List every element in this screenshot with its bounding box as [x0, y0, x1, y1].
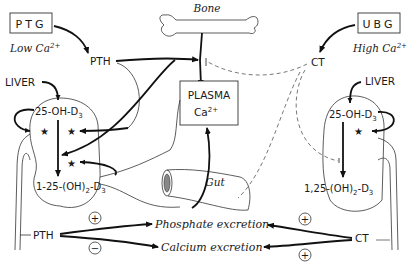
- pth-to-bone-arrow: [116, 59, 198, 61]
- pth-calcium-sign: −: [91, 243, 99, 254]
- ct-bottom-label: CT: [355, 232, 369, 244]
- right-125ohd3-label: 1,25-(OH)2-D3: [304, 183, 373, 197]
- low-ca-label: Low Ca2+: [9, 42, 60, 54]
- pth-phosphate-sign: +: [91, 213, 99, 224]
- left-loop-arrow: [15, 110, 34, 131]
- ct-phosphate-sign: +: [301, 214, 309, 225]
- right-liver-label: LIVER: [365, 75, 395, 87]
- pth-bottom-label: PTH: [33, 229, 54, 241]
- right-star-1: ★: [354, 126, 363, 137]
- high-ca-label: High Ca2+: [352, 42, 407, 54]
- ubg-label: UBG: [363, 18, 396, 31]
- bone-icon: [160, 15, 258, 36]
- pth-calcium-arrow: [60, 236, 158, 247]
- ct-inhibit-bone-line: [208, 62, 307, 75]
- left-liver-arrow: [42, 82, 58, 100]
- pth-to-star-arrow: [80, 128, 128, 131]
- ct-top-label: CT: [311, 56, 325, 68]
- left-25ohd3-label: 25-OH-D3: [35, 106, 83, 120]
- ct-phosphate-arrow: [268, 225, 352, 238]
- ptg-gland-box: PTG: [10, 13, 52, 33]
- calcium-excretion-label: Calcium excretion: [161, 241, 262, 254]
- right-liver-arrow: [350, 82, 361, 103]
- right-25ohd3-label: 25-OH-D3: [329, 109, 377, 123]
- bone-label: Bone: [192, 2, 220, 14]
- gut-to-plasma-arrow: [192, 128, 209, 208]
- plasma-to-kidney-arrow: [62, 60, 175, 155]
- ct-calcium-arrow: [264, 240, 352, 247]
- ubg-gland-box: UBG: [358, 13, 400, 33]
- phosphate-excretion-label: Phosphate excretion: [154, 218, 269, 231]
- plasma-label: PLASMA: [188, 89, 231, 101]
- left-star-1: ★: [40, 126, 49, 137]
- calcium-regulation-diagram: PTG Low Ca2+ UBG High Ca2+ Bone PTH CT P…: [0, 0, 416, 269]
- ptg-label: PTG: [16, 18, 47, 31]
- feedback-star-arrow: [80, 162, 116, 175]
- ct-calcium-sign: +: [301, 250, 309, 261]
- ct-inhibit-gut-line: [238, 72, 300, 198]
- left-star-2: ★: [67, 126, 76, 137]
- left-star-3: ★: [67, 158, 76, 169]
- plasma-ca-box: PLASMA Ca2+: [180, 81, 238, 125]
- left-liver-label: LIVER: [5, 76, 35, 88]
- pth-top-label: PTH: [90, 55, 111, 67]
- bone-to-plasma-arrow: [200, 33, 202, 86]
- pth-phosphate-arrow: [60, 224, 152, 234]
- ubg-to-ct-arrow: [320, 25, 355, 52]
